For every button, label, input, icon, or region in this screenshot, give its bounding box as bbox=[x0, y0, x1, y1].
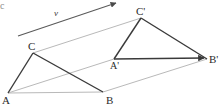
edge-a-prime-c-prime bbox=[114, 18, 141, 59]
label-point-b-prime: B' bbox=[209, 54, 218, 65]
label-point-a-prime: A' bbox=[110, 61, 119, 71]
edge-c-b bbox=[33, 53, 103, 92]
figure-canvas bbox=[0, 0, 219, 108]
edge-a-b bbox=[8, 92, 103, 93]
label-point-c-prime: C' bbox=[136, 6, 145, 17]
guide-c-to-c-prime bbox=[33, 18, 141, 53]
edge-a-c bbox=[8, 53, 33, 93]
edge-a-prime-b-prime bbox=[114, 58, 204, 59]
edge-c-prime-b-prime bbox=[141, 18, 207, 59]
vector-label-v: v bbox=[54, 9, 58, 18]
guide-a-to-a-prime bbox=[8, 59, 114, 93]
label-point-c: C bbox=[28, 41, 35, 52]
label-point-b: B bbox=[106, 95, 113, 106]
edge-fragment-label: c bbox=[0, 1, 4, 11]
label-point-a: A bbox=[2, 95, 10, 106]
translation-figure: c v A B C A' B' C' bbox=[0, 0, 219, 108]
